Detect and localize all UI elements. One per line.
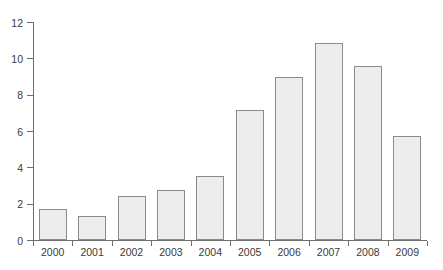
bar-chart: 024681012 200020012002200320042005200620… [0,0,443,270]
bar [157,190,185,240]
bar [196,176,224,240]
x-axis-tick-label: 2000 [33,247,72,258]
x-axis-tick-label: 2008 [348,247,387,258]
bars-layer [0,0,443,270]
x-axis-tick-label: 2003 [151,247,190,258]
bar [118,196,146,240]
bar [315,43,343,240]
x-axis-tick-label: 2001 [72,247,111,258]
bar [354,66,382,240]
x-axis-tick-label: 2006 [269,247,308,258]
x-axis-tick-label: 2004 [191,247,230,258]
x-axis-tick-label: 2002 [112,247,151,258]
bar [236,110,264,240]
bar [78,216,106,240]
bar [39,209,67,240]
bar [275,77,303,241]
bar [393,136,421,240]
x-axis-tick-label: 2007 [309,247,348,258]
x-axis-tick-label: 2005 [230,247,269,258]
x-axis-tick-label: 2009 [388,247,427,258]
